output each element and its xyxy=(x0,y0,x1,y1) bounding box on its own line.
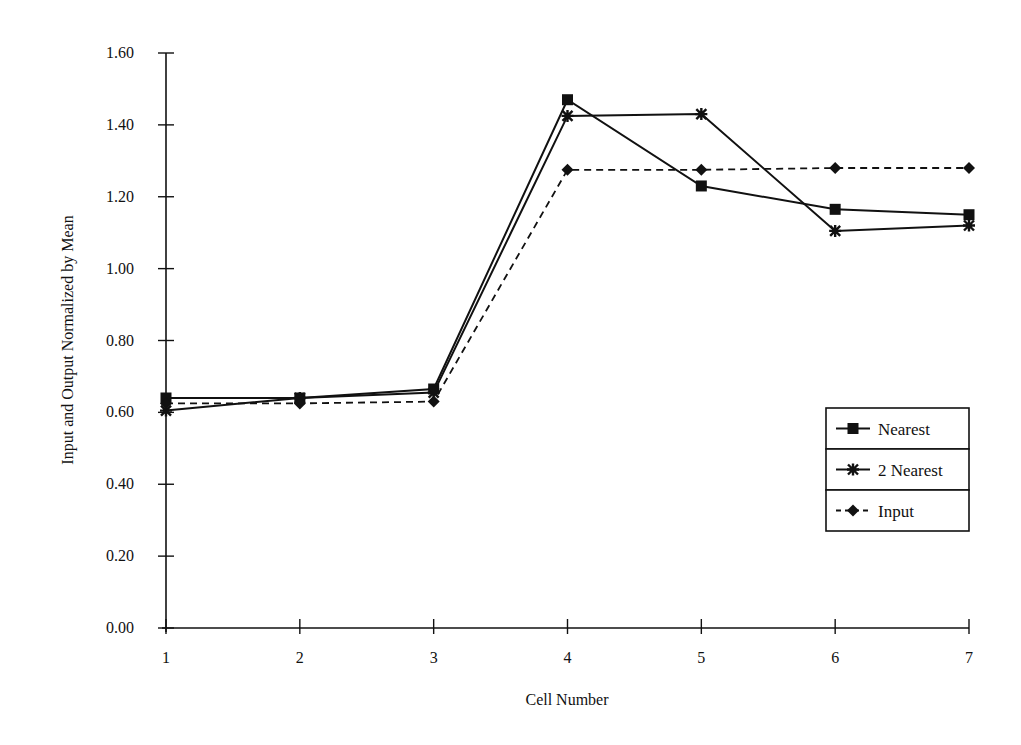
x-tick-label: 2 xyxy=(296,649,304,666)
y-tick-label: 0.60 xyxy=(106,403,134,420)
y-tick-label: 1.20 xyxy=(106,188,134,205)
y-tick-label: 0.00 xyxy=(106,619,134,636)
line-chart: 0.000.200.400.600.801.001.201.401.60 123… xyxy=(0,0,1021,745)
series-nearest xyxy=(161,94,975,403)
x-tick-label: 3 xyxy=(430,649,438,666)
x-tick-label: 5 xyxy=(697,649,705,666)
series-lines xyxy=(160,94,975,416)
x-tick-label: 4 xyxy=(564,649,572,666)
x-tick-label: 1 xyxy=(162,649,170,666)
y-tick-label: 1.00 xyxy=(106,260,134,277)
y-tick-label: 1.40 xyxy=(106,116,134,133)
y-tick-label: 0.80 xyxy=(106,332,134,349)
legend-item-label: Nearest xyxy=(878,420,930,439)
x-axis-title: Cell Number xyxy=(525,691,609,708)
x-tick-label: 7 xyxy=(965,649,973,666)
y-axis: 0.000.200.400.600.801.001.201.401.60 xyxy=(106,44,174,636)
x-tick-label: 6 xyxy=(831,649,839,666)
series-2-nearest xyxy=(160,108,975,416)
y-axis-title: Input and Output Normalized by Mean xyxy=(59,215,77,464)
y-tick-label: 1.60 xyxy=(106,44,134,61)
legend-item-label: 2 Nearest xyxy=(878,461,943,480)
x-axis: 1234567 xyxy=(162,619,973,666)
y-tick-label: 0.20 xyxy=(106,547,134,564)
legend: Nearest2 NearestInput xyxy=(826,408,969,531)
y-tick-label: 0.40 xyxy=(106,475,134,492)
series-input xyxy=(160,162,975,409)
legend-item-label: Input xyxy=(878,502,914,521)
